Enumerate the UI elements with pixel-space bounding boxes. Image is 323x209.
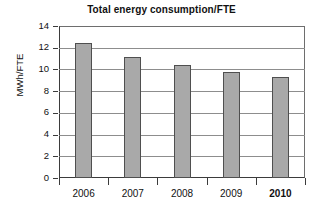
- bar: [75, 43, 92, 178]
- x-tick-mark: [108, 178, 109, 185]
- gridline: [59, 48, 305, 49]
- y-tick-label: 12: [23, 41, 49, 52]
- y-tick-label: 0: [23, 172, 49, 183]
- x-tick-label: 2008: [155, 188, 209, 199]
- x-tick-label: 2009: [204, 188, 258, 199]
- y-tick-label: 6: [23, 106, 49, 117]
- x-tick-mark: [59, 178, 60, 185]
- x-tick-mark: [305, 178, 306, 185]
- bar: [174, 65, 191, 178]
- x-tick-label: 2006: [57, 188, 111, 199]
- bar: [272, 77, 289, 178]
- bar-chart: Total energy consumption/FTE MWh/FTE 024…: [0, 0, 323, 209]
- y-tick-label: 10: [23, 63, 49, 74]
- x-tick-mark: [157, 178, 158, 185]
- y-tick-mark: [53, 178, 58, 179]
- x-tick-mark: [207, 178, 208, 185]
- y-tick-label: 14: [23, 20, 49, 31]
- bar: [124, 57, 141, 178]
- y-tick-mark: [53, 26, 58, 27]
- x-tick-label: 2007: [106, 188, 160, 199]
- y-tick-mark: [53, 156, 58, 157]
- y-tick-mark: [53, 48, 58, 49]
- y-tick-mark: [53, 113, 58, 114]
- x-tick-label: 2010: [253, 188, 307, 199]
- y-tick-label: 2: [23, 150, 49, 161]
- y-tick-label: 4: [23, 128, 49, 139]
- bar: [223, 72, 240, 178]
- chart-title: Total energy consumption/FTE: [0, 4, 323, 15]
- y-tick-mark: [53, 69, 58, 70]
- y-tick-mark: [53, 91, 58, 92]
- x-tick-mark: [256, 178, 257, 185]
- y-tick-mark: [53, 135, 58, 136]
- y-tick-label: 8: [23, 85, 49, 96]
